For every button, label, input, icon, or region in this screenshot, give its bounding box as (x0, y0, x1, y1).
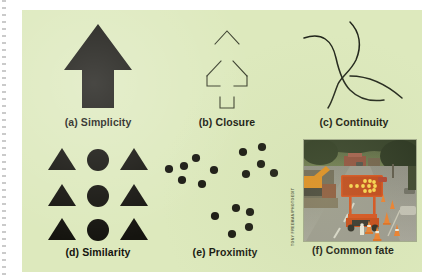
panel-common-fate: TONY FREEMAN/PHOTOEDIT (290, 138, 416, 266)
figure-background-panel: (a) Simplicity (22, 10, 422, 272)
triangle-shape (48, 184, 76, 206)
dot-cluster-upper-left (165, 154, 218, 188)
road-construction-photo (304, 140, 416, 241)
figure-page: (a) Simplicity (0, 0, 434, 278)
caption-continuity: (c) Continuity (288, 116, 420, 128)
caption-similarity: (d) Similarity (32, 246, 164, 258)
solid-up-arrow-icon (28, 18, 168, 114)
panel-similarity: (d) Similarity (32, 142, 164, 266)
triangle-shape (120, 218, 148, 240)
two-crossing-curves-icon (288, 14, 420, 114)
triangle-shape (48, 218, 76, 240)
panel-proximity: (e) Proximity (162, 142, 288, 266)
proximity-figure (162, 142, 288, 246)
circle-shape (87, 149, 109, 171)
worker-figure (360, 223, 364, 235)
dot-cluster-lower-center (211, 204, 254, 238)
caption-closure: (b) Closure (162, 116, 292, 128)
triangle-shape (48, 148, 76, 170)
panel-closure: (b) Closure (162, 18, 292, 136)
closure-figure (162, 18, 292, 114)
triangle-shape (120, 148, 148, 170)
photo-credit: TONY FREEMAN/PHOTOEDIT (291, 188, 295, 246)
circle-shape (87, 219, 109, 241)
continuity-figure (288, 14, 420, 114)
similarity-grid-icon (32, 142, 164, 246)
page-gutter-dots (2, 0, 6, 278)
caption-proximity: (e) Proximity (162, 246, 288, 258)
similarity-figure (32, 142, 164, 246)
triangle-shape (120, 184, 148, 206)
caption-common-fate: (f) Common fate (290, 244, 416, 256)
panel-simplicity: (a) Simplicity (28, 18, 168, 136)
circle-shape (87, 185, 109, 207)
broken-outline-up-arrow-icon (162, 18, 292, 114)
caption-simplicity: (a) Simplicity (28, 116, 168, 128)
proximity-dot-clusters-icon (162, 142, 288, 246)
dot-cluster-upper-right (239, 143, 278, 178)
simplicity-figure (28, 18, 168, 114)
common-fate-photograph (304, 140, 416, 241)
panel-continuity: (c) Continuity (288, 14, 420, 136)
